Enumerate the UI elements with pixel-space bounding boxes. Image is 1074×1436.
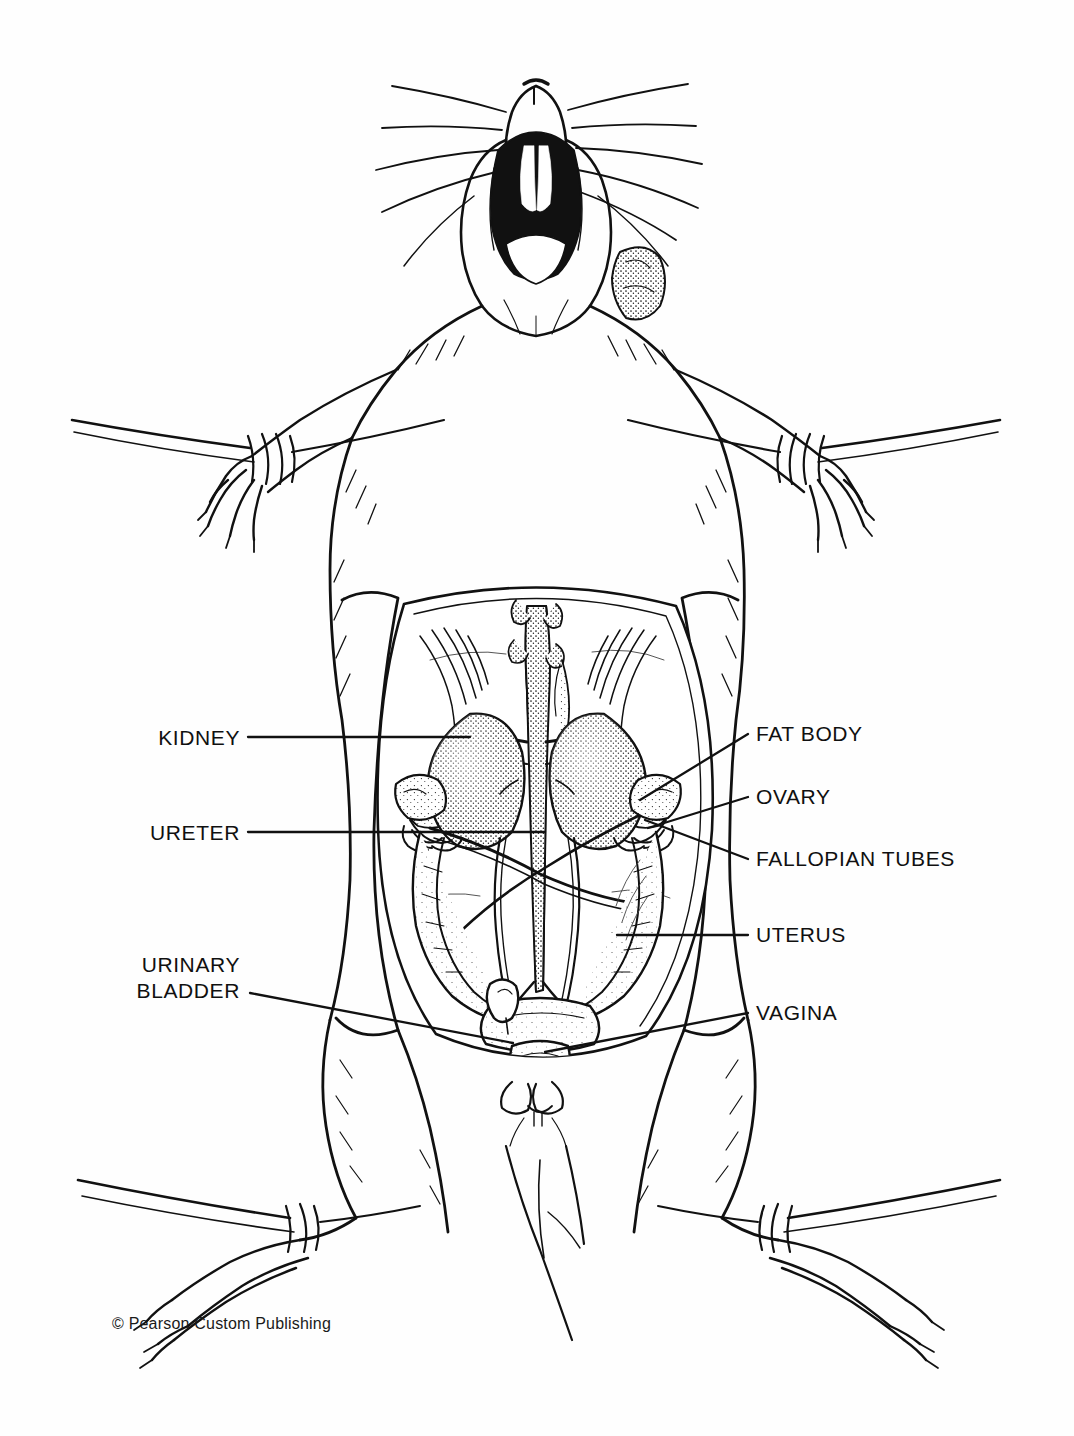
rat-dissection-illustration <box>0 0 1074 1436</box>
label-urinary-bladder: URINARYBLADDER <box>0 952 240 1003</box>
label-fallopian-tubes: FALLOPIAN TUBES <box>756 847 955 871</box>
hindlimb-right <box>658 1180 1000 1368</box>
label-uterus: UTERUS <box>756 923 846 947</box>
hindquarters <box>300 1020 778 1340</box>
label-kidney: KIDNEY <box>0 726 240 750</box>
forelimb-left <box>72 370 444 552</box>
label-ovary: OVARY <box>756 785 831 809</box>
hindlimb-left <box>78 1180 420 1368</box>
rat-head <box>461 80 611 336</box>
copyright-notice: © Pearson Custom Publishing <box>112 1315 331 1333</box>
label-fat-body: FAT BODY <box>756 722 863 746</box>
ovary-left <box>395 775 446 820</box>
label-urinary-bladder-line2: BLADDER <box>0 978 240 1004</box>
ovary-right <box>630 775 681 820</box>
abdominal-cavity <box>378 587 713 1146</box>
genital-papilla <box>501 1082 566 1146</box>
vagina <box>510 1041 570 1086</box>
ear-patch <box>612 247 665 319</box>
label-vagina: VAGINA <box>756 1001 837 1025</box>
figure-page: KIDNEYURETERURINARYBLADDER FAT BODYOVARY… <box>0 0 1074 1436</box>
forelimb-right <box>628 370 1000 552</box>
label-ureter: URETER <box>0 821 240 845</box>
label-urinary-bladder-line1: URINARY <box>0 952 240 978</box>
